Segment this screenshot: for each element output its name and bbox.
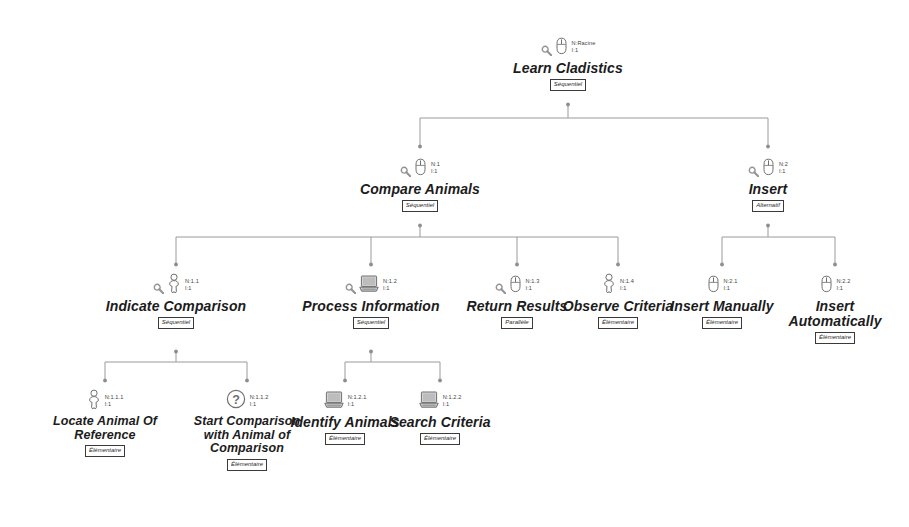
node-tag-wrap: Élémentaire: [666, 317, 778, 329]
node-tag-wrap: Séquentiel: [468, 79, 668, 91]
node-tag: Élémentaire: [325, 433, 365, 445]
node-icon-row: N:2.2I:1: [779, 272, 891, 298]
magnifier-icon: [400, 163, 411, 174]
node-codes: N:1.1.2I:1: [249, 394, 269, 408]
node-icon-row: N:1.1I:1: [76, 272, 276, 298]
node-iteration: I:1: [431, 168, 440, 175]
node-icon-row: N:2I:1: [668, 155, 868, 181]
node-label: Process Information: [271, 299, 471, 314]
node-iteration: I:1: [779, 168, 788, 175]
computer-icon: [324, 390, 344, 413]
node-iteration: I:1: [105, 401, 124, 408]
user-icon: [87, 389, 101, 414]
node-label: Insert Manually: [666, 299, 778, 314]
mouse-icon: [707, 273, 720, 297]
task-node-root[interactable]: N:RacineI:1Learn CladisticsSéquentiel: [468, 34, 668, 91]
node-iteration: I:1: [250, 401, 269, 408]
node-icon-row: N:1I:1: [320, 155, 520, 181]
node-label: Locate Animal Of Reference: [40, 415, 170, 442]
magnifier-icon: [748, 163, 759, 174]
node-tag-wrap: Séquentiel: [320, 200, 520, 212]
mouse-icon: [820, 273, 833, 297]
task-node-search-criteria[interactable]: N:1.2.2I:1Search CriteriaÉlémentaire: [384, 388, 496, 445]
node-tag: Élémentaire: [420, 433, 460, 445]
node-iteration: I:1: [572, 47, 596, 54]
task-node-insert-manually[interactable]: N:2.1I:1Insert ManuallyÉlémentaire: [666, 272, 778, 329]
node-codes: N:2.1I:1: [723, 278, 738, 292]
magnifier-icon: [541, 42, 552, 53]
node-label: Indicate Comparison: [76, 299, 276, 314]
node-tag-wrap: Élémentaire: [40, 445, 170, 457]
node-number: N:1.2.2: [443, 394, 462, 401]
node-tag: Élémentaire: [598, 317, 638, 329]
computer-icon: [359, 274, 379, 297]
node-tag: Séquentiel: [158, 317, 194, 329]
magnifier-icon: [345, 280, 356, 291]
node-label: Insert Automatically: [779, 299, 891, 329]
magnifier-icon: [153, 280, 164, 291]
node-codes: N:1I:1: [430, 161, 440, 175]
task-node-indicate-comparison[interactable]: N:1.1I:1Indicate ComparisonSéquentiel: [76, 272, 276, 329]
node-number: N:1.1.1: [105, 394, 124, 401]
node-codes: N:1.1.1I:1: [104, 394, 124, 408]
node-number: N:1.4: [620, 278, 634, 285]
task-node-compare-animals[interactable]: N:1I:1Compare AnimalsSéquentiel: [320, 155, 520, 212]
node-iteration: I:1: [185, 285, 199, 292]
computer-icon: [419, 390, 439, 413]
task-node-insert[interactable]: N:2I:1InsertAlternatif: [668, 155, 868, 212]
node-label: Learn Cladistics: [468, 61, 668, 76]
node-tag-wrap: Élémentaire: [384, 433, 496, 445]
node-number: N:1.2: [383, 278, 397, 285]
node-icon-row: N:1.2I:1: [271, 272, 471, 298]
node-iteration: I:1: [443, 401, 462, 408]
node-tag-wrap: Élémentaire: [779, 332, 891, 344]
node-iteration: I:1: [620, 285, 634, 292]
node-tag-wrap: Alternatif: [668, 200, 868, 212]
node-iteration: I:1: [724, 285, 738, 292]
node-number: N:1.1.2: [250, 394, 269, 401]
node-tag-wrap: Séquentiel: [271, 317, 471, 329]
node-codes: N:1.1I:1: [184, 278, 199, 292]
node-codes: N:1.2I:1: [382, 278, 397, 292]
user-icon: [167, 273, 181, 298]
node-tag: Séquentiel: [402, 200, 438, 212]
task-tree-diagram: N:RacineI:1Learn CladisticsSéquentielN:1…: [0, 0, 909, 527]
node-codes: N:2.2I:1: [836, 278, 851, 292]
node-label: Compare Animals: [320, 182, 520, 197]
node-number: N:2.2: [837, 278, 851, 285]
task-node-process-information[interactable]: N:1.2I:1Process InformationSéquentiel: [271, 272, 471, 329]
magnifier-icon: [495, 280, 506, 291]
node-tag-wrap: Séquentiel: [76, 317, 276, 329]
mouse-icon: [555, 35, 568, 59]
node-icon-row: N:2.1I:1: [666, 272, 778, 298]
node-label: Search Criteria: [384, 415, 496, 430]
node-label: Insert: [668, 182, 868, 197]
question-icon: ?: [226, 389, 246, 413]
task-node-insert-automatically[interactable]: N:2.2I:1Insert AutomaticallyÉlémentaire: [779, 272, 891, 344]
node-codes: N:1.2.2I:1: [442, 394, 462, 408]
user-icon: [602, 273, 616, 298]
node-codes: N:RacineI:1: [571, 40, 596, 54]
node-iteration: I:1: [383, 285, 397, 292]
svg-text:?: ?: [232, 393, 240, 407]
node-number: N:2: [779, 161, 788, 168]
node-icon-row: N:1.1.1I:1: [40, 388, 170, 414]
node-iteration: I:1: [348, 401, 367, 408]
node-codes: N:1.2.1I:1: [347, 394, 367, 408]
node-icon-row: N:RacineI:1: [468, 34, 668, 60]
node-codes: N:1.4I:1: [619, 278, 634, 292]
node-codes: N:2I:1: [778, 161, 788, 175]
node-number: N:1.1: [185, 278, 199, 285]
node-tag-wrap: Élémentaire: [182, 459, 312, 471]
node-number: N:1.2.1: [348, 394, 367, 401]
node-tag: Alternatif: [752, 200, 784, 212]
node-tag: Séquentiel: [353, 317, 389, 329]
node-tag: Séquentiel: [550, 79, 586, 91]
node-number: N:2.1: [724, 278, 738, 285]
node-icon-row: N:1.2.2I:1: [384, 388, 496, 414]
mouse-icon: [762, 156, 775, 180]
task-node-locate-animal-of-reference[interactable]: N:1.1.1I:1Locate Animal Of ReferenceÉlém…: [40, 388, 170, 457]
node-tag: Élémentaire: [815, 332, 855, 344]
node-number: N:1: [431, 161, 440, 168]
node-number: N:Racine: [572, 40, 596, 47]
